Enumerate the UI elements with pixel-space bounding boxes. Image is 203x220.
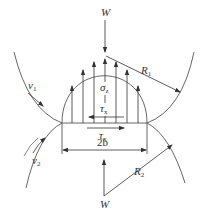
velocity-1-arrow (28, 93, 43, 106)
radius-2-label: R2 (134, 166, 144, 179)
lower-cylinder-right-arc (147, 123, 185, 183)
velocity-1-label: v1 (28, 80, 36, 93)
load-label-bottom: W (100, 199, 109, 210)
contact-width-label: 2b (97, 137, 108, 148)
contact-stress-diagram: W W R1 R2 v1 v2 σz τx τx 2b (0, 0, 203, 220)
upper-cylinder-left-arc (14, 52, 62, 123)
normal-stress-label: σz (99, 82, 110, 95)
shear-stress-upper-label: τx (99, 103, 108, 116)
load-label-top: W (101, 7, 110, 18)
radius-1-label: R1 (141, 65, 151, 78)
velocity-2-label: v2 (32, 155, 40, 168)
